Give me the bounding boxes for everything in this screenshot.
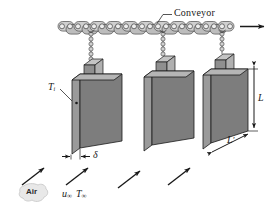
initial-temperature-label: Ti: [48, 82, 55, 92]
air-label: Air: [26, 188, 37, 196]
conveyor-label: Conveyor: [174, 8, 215, 18]
free-stream-conditions-label: u∞T∞: [62, 189, 87, 200]
plate-assembly-2: [144, 30, 194, 151]
thickness-label: δ: [93, 150, 98, 160]
air-flow-arrows: [22, 168, 190, 188]
hanger-chain-1: [88, 30, 95, 62]
height-label: L: [258, 93, 264, 103]
initial-temperature-subscript: i: [54, 86, 56, 92]
depth-prime: ′: [233, 135, 235, 145]
plate-assembly-3: [203, 30, 248, 149]
chain-links: [58, 22, 234, 35]
air-arrow-4: [168, 168, 190, 185]
diagram-svg: [0, 0, 273, 210]
initial-temperature-leader: [60, 89, 72, 101]
height-dimension: [248, 66, 258, 131]
plate-1: [72, 74, 122, 154]
depth-label: L′: [227, 135, 235, 145]
free-stream-temperature-subscript: ∞: [82, 192, 87, 200]
velocity-subscript: ∞: [67, 192, 72, 200]
conveyor-chain: [58, 22, 264, 35]
plate-2: [144, 71, 194, 151]
air-arrow-1: [22, 168, 44, 185]
plate-assembly-1: [72, 30, 122, 154]
air-arrow-3: [118, 171, 140, 188]
figure-canvas: Conveyor Ti δ L L′ Air u∞T∞: [0, 0, 273, 210]
air-arrow-2: [66, 168, 88, 185]
